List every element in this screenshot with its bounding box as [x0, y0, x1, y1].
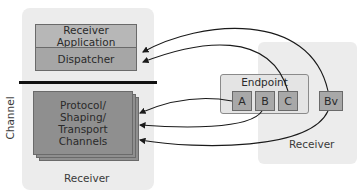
arrow-c-to-dispatcher — [143, 45, 288, 91]
arrow-a-to-channels — [140, 98, 232, 113]
arrow-bv-to-channels — [140, 111, 328, 146]
connector-arrows — [0, 0, 357, 193]
arrow-bv-to-dispatcher — [143, 28, 328, 91]
arrow-b-to-channels — [140, 111, 262, 127]
